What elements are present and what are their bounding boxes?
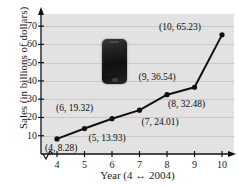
axes <box>38 7 236 159</box>
x-tick-label: 10 <box>212 160 232 170</box>
data-point-label: (4, 8.28) <box>45 144 77 154</box>
data-point-marker <box>192 85 197 90</box>
y-tick-label: 40 <box>17 76 37 86</box>
data-point-label: (9, 36.54) <box>139 73 176 83</box>
x-tick-label: 5 <box>75 160 95 170</box>
data-point-label: (10, 65.23) <box>159 23 201 33</box>
data-point-label: (8, 32.48) <box>168 100 205 110</box>
y-tick-label: 30 <box>17 94 37 104</box>
y-tick-label: 10 <box>17 131 37 141</box>
data-point-marker <box>137 108 142 113</box>
data-point-marker <box>164 92 169 97</box>
y-axis-arrowhead <box>38 7 44 15</box>
data-point-marker <box>219 32 224 37</box>
data-point-label: (5, 13.93) <box>89 134 126 144</box>
x-tick-label: 6 <box>102 160 122 170</box>
x-tick-label: 9 <box>185 160 205 170</box>
y-tick-label: 60 <box>17 39 37 49</box>
y-tick-label: 70 <box>17 21 37 31</box>
data-point-marker <box>54 136 59 141</box>
x-tick-label: 7 <box>130 160 150 170</box>
x-tick-label: 4 <box>47 160 67 170</box>
data-point-marker <box>109 116 114 121</box>
data-point-label: (7, 24.01) <box>142 118 179 128</box>
y-tick-label: 20 <box>17 112 37 122</box>
data-point-label: (6, 19.32) <box>56 104 93 114</box>
data-point-marker <box>82 126 87 131</box>
series-line <box>57 35 222 139</box>
x-tick-label: 8 <box>157 160 177 170</box>
x-axis-arrowhead <box>228 151 236 157</box>
y-tick-label: 50 <box>17 58 37 68</box>
chart-figure: Sales (in billions of dollars) Year (4 ↔… <box>0 0 238 189</box>
data-series <box>54 32 224 141</box>
